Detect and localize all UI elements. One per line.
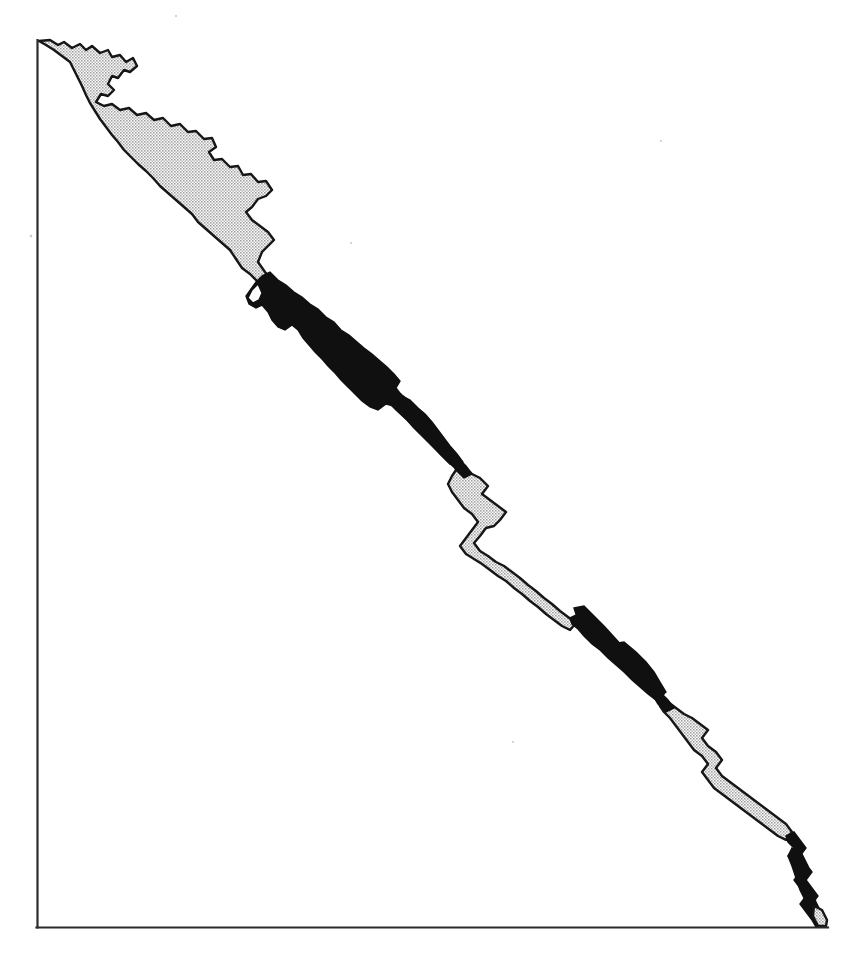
figure-canvas <box>0 0 868 967</box>
plot-svg <box>0 0 868 967</box>
